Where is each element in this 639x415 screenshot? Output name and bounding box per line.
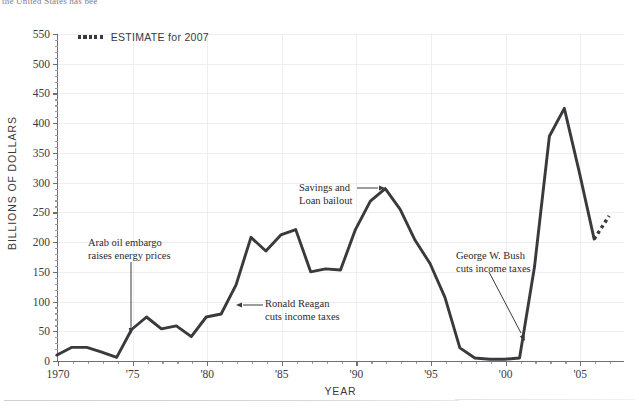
x-tick-label: '05 — [573, 368, 587, 380]
y-tick-minor — [55, 337, 58, 338]
y-tick-minor — [55, 296, 58, 297]
y-tick-minor — [55, 40, 58, 41]
gridline-horizontal — [58, 93, 624, 94]
y-tick-minor — [55, 117, 58, 118]
y-tick-major — [53, 153, 58, 154]
y-tick-minor — [55, 343, 58, 344]
y-tick-minor — [55, 159, 58, 160]
y-tick-minor — [55, 307, 58, 308]
annotation-line-2: raises energy prices — [88, 250, 171, 263]
y-tick-minor — [55, 46, 58, 47]
chart-figure: the United States has bee BILLIONS OF DO… — [0, 0, 639, 415]
y-tick-label: 0 — [44, 355, 50, 367]
gridline-vertical — [207, 34, 208, 361]
gridline-horizontal — [58, 331, 624, 332]
y-tick-minor — [55, 189, 58, 190]
y-tick-minor — [55, 290, 58, 291]
x-tick-label: '95 — [424, 368, 438, 380]
y-tick-major — [53, 242, 58, 243]
gridline-horizontal — [58, 153, 624, 154]
annotation-line-2: Loan bailout — [299, 195, 352, 208]
y-tick-label: 200 — [33, 236, 50, 248]
y-tick-minor — [55, 218, 58, 219]
y-tick-major — [53, 64, 58, 65]
gridline-horizontal — [58, 212, 624, 213]
annotation-savings-loan-bailout: Savings and Loan bailout — [299, 182, 352, 207]
y-tick-minor — [55, 82, 58, 83]
y-tick-label: 550 — [33, 28, 50, 40]
y-tick-minor — [55, 52, 58, 53]
y-tick-minor — [55, 177, 58, 178]
footer-divider — [4, 400, 459, 401]
y-tick-minor — [55, 70, 58, 71]
y-tick-minor — [55, 224, 58, 225]
gridline-vertical — [580, 34, 581, 361]
y-tick-minor — [55, 141, 58, 142]
y-tick-major — [53, 302, 58, 303]
x-tick-label: '90 — [350, 368, 364, 380]
gridline-vertical — [133, 34, 134, 361]
clipped-header-text: the United States has bee — [0, 0, 639, 9]
y-axis-title: BILLIONS OF DOLLARS — [6, 116, 18, 250]
y-tick-minor — [55, 147, 58, 148]
annotation-george-w-bush-tax-cuts: George W. Bush cuts income taxes — [456, 250, 531, 275]
y-tick-minor — [55, 355, 58, 356]
gridline-horizontal — [58, 64, 624, 65]
y-tick-minor — [55, 260, 58, 261]
y-tick-minor — [55, 195, 58, 196]
y-tick-label: 50 — [39, 325, 51, 337]
y-tick-label: 350 — [33, 147, 50, 159]
y-tick-minor — [55, 325, 58, 326]
y-tick-minor — [55, 236, 58, 237]
y-tick-minor — [55, 284, 58, 285]
legend-label: ESTIMATE for 2007 — [111, 31, 209, 43]
annotation-line-2: cuts income taxes — [456, 263, 531, 276]
y-tick-label: 450 — [33, 87, 50, 99]
y-tick-label: 150 — [33, 266, 50, 278]
y-tick-minor — [55, 248, 58, 249]
y-tick-minor — [55, 129, 58, 130]
annotation-line-1: Arab oil embargo — [88, 237, 171, 250]
annotation-line-1: Ronald Reagan — [265, 298, 340, 311]
dotted-line-swatch — [78, 35, 103, 38]
gridline-vertical — [356, 34, 357, 361]
footer-divider-faint — [455, 399, 635, 400]
y-tick-minor — [55, 254, 58, 255]
x-tick-label: '00 — [499, 368, 513, 380]
y-tick-minor — [55, 200, 58, 201]
y-tick-major — [53, 123, 58, 124]
gridline-horizontal — [58, 272, 624, 273]
y-tick-label: 250 — [33, 206, 50, 218]
y-tick-minor — [55, 230, 58, 231]
y-tick-minor — [55, 58, 58, 59]
y-tick-major — [53, 272, 58, 273]
y-tick-major — [53, 183, 58, 184]
x-tick-label: '75 — [126, 368, 140, 380]
gridline-vertical — [506, 34, 507, 361]
y-tick-label: 500 — [33, 58, 50, 70]
gridline-horizontal — [58, 302, 624, 303]
y-tick-minor — [55, 135, 58, 136]
x-axis-title: YEAR — [57, 385, 624, 397]
y-tick-minor — [55, 105, 58, 106]
y-tick-major — [53, 34, 58, 35]
y-tick-minor — [55, 171, 58, 172]
annotation-ronald-reagan-tax-cuts: Ronald Reagan cuts income taxes — [265, 298, 340, 323]
y-tick-minor — [55, 165, 58, 166]
y-tick-label: 300 — [33, 177, 50, 189]
annotation-line-2: cuts income taxes — [265, 311, 340, 324]
y-tick-minor — [55, 319, 58, 320]
y-tick-minor — [55, 278, 58, 279]
y-tick-minor — [55, 88, 58, 89]
y-tick-minor — [55, 99, 58, 100]
y-tick-minor — [55, 266, 58, 267]
y-tick-minor — [55, 111, 58, 112]
y-tick-major — [53, 212, 58, 213]
legend: ESTIMATE for 2007 — [78, 31, 209, 43]
y-tick-major — [53, 331, 58, 332]
y-tick-minor — [55, 76, 58, 77]
x-tick-label: 1970 — [47, 368, 70, 380]
y-tick-label: 400 — [33, 117, 50, 129]
y-tick-minor — [55, 206, 58, 207]
gridline-vertical — [431, 34, 432, 361]
